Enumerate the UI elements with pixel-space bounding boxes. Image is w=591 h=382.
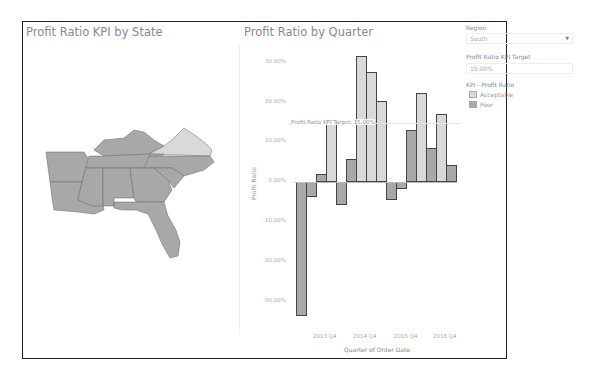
bar-2015-q3[interactable] bbox=[396, 182, 407, 189]
y-tick-label: 30.00% bbox=[250, 58, 286, 64]
kpi-target-label: Profit Ratio KPI Target bbox=[466, 53, 531, 60]
y-tick-label: 20.00% bbox=[250, 98, 286, 104]
legend-swatch-poor[interactable] bbox=[469, 101, 477, 108]
kpi-target-input[interactable]: 15.00% bbox=[466, 63, 573, 74]
chart-title: Profit Ratio by Quarter bbox=[244, 25, 373, 39]
y-tick-label: 10.00% bbox=[250, 137, 286, 143]
legend-title: KPI - Profit Ratio bbox=[466, 81, 514, 88]
y-tick-label: -30.00% bbox=[250, 297, 286, 303]
x-tick-label: 2016 Q4 bbox=[433, 333, 457, 339]
x-tick-label: 2015 Q4 bbox=[394, 333, 418, 339]
bar-2014-q1[interactable] bbox=[336, 182, 347, 205]
state-arkansas[interactable] bbox=[46, 152, 88, 182]
region-filter-label: Region bbox=[466, 24, 487, 31]
zero-baseline bbox=[295, 182, 457, 183]
x-tick-label: 2013 Q4 bbox=[313, 333, 337, 339]
y-tick-label: -20.00% bbox=[250, 257, 286, 263]
state-florida[interactable] bbox=[114, 202, 180, 258]
region-dropdown-value: South bbox=[470, 35, 487, 42]
bar-2013-q2[interactable] bbox=[306, 182, 317, 197]
state-virginia[interactable] bbox=[149, 128, 212, 156]
bar-2013-q4[interactable] bbox=[326, 120, 337, 182]
kpi-target-value: 15.00% bbox=[470, 65, 493, 72]
bar-2016-q4[interactable] bbox=[446, 165, 457, 182]
legend-swatch-acceptable[interactable] bbox=[469, 91, 477, 98]
chevron-down-icon: ▼ bbox=[565, 35, 569, 41]
kpi-target-reference-label: Profit Ratio KPI Target: 15.00% bbox=[291, 119, 375, 125]
southeast-state-map[interactable] bbox=[44, 118, 224, 282]
map-title: Profit Ratio KPI by State bbox=[26, 25, 163, 39]
legend-label-poor[interactable]: Poor bbox=[480, 101, 493, 108]
region-dropdown[interactable]: South ▼ bbox=[466, 33, 573, 44]
y-axis-title: Profit Ratio bbox=[250, 167, 257, 200]
bar-2013-q1[interactable] bbox=[296, 182, 307, 316]
state-alabama[interactable] bbox=[103, 168, 134, 206]
bar-2015-q1[interactable] bbox=[376, 101, 387, 182]
legend-label-acceptable[interactable]: Acceptable bbox=[480, 91, 513, 98]
y-tick-label: 0.00% bbox=[250, 177, 286, 183]
x-axis-title: Quarter of Order Date bbox=[344, 346, 410, 353]
panel-divider bbox=[239, 45, 240, 335]
y-tick-label: -10.00% bbox=[250, 217, 286, 223]
x-tick-label: 2014 Q4 bbox=[353, 333, 377, 339]
